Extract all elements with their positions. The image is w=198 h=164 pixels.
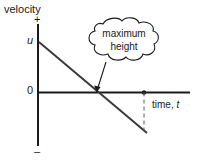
x-axis-title-variable: t (176, 99, 179, 110)
callout-text-line-1: maximum (92, 27, 156, 40)
x-axis-title-prefix: time, (152, 99, 176, 110)
callout-arrow-shaft (98, 62, 107, 89)
callout-text-line-2: height (92, 40, 156, 53)
x-axis-title: time, t (152, 100, 179, 110)
graph-canvas (0, 0, 198, 164)
callout-text: maximum height (92, 27, 156, 53)
initial-velocity-label: u (27, 35, 33, 46)
velocity-time-graph: velocity + – u 0 time, t maximum height (0, 0, 198, 164)
origin-label: 0 (27, 85, 33, 96)
y-axis-positive-sign: + (34, 14, 40, 25)
y-axis-negative-sign: – (34, 146, 40, 157)
